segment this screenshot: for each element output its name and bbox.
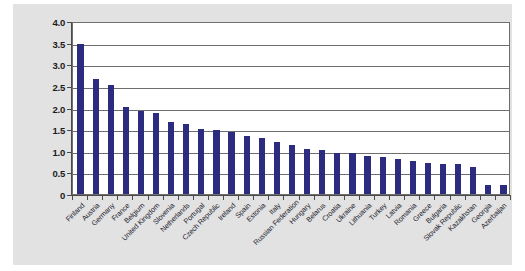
x-tick-mark: [102, 196, 103, 200]
y-tick-mark: [67, 22, 71, 23]
y-tick-label: 1.5: [52, 125, 65, 136]
y-tick-label: 0: [60, 190, 65, 201]
x-tick-mark: [72, 196, 73, 200]
bar: [198, 129, 204, 194]
x-tick-mark: [465, 196, 466, 200]
x-tick-mark: [314, 196, 315, 200]
bar: [77, 44, 83, 194]
bar: [425, 163, 431, 194]
bar: [138, 111, 144, 194]
x-tick-mark: [238, 196, 239, 200]
bar: [168, 122, 174, 194]
bar: [123, 107, 129, 194]
bar: [304, 149, 310, 194]
y-tick-label: 0.5: [52, 168, 65, 179]
bar: [500, 185, 506, 194]
x-tick-mark: [253, 196, 254, 200]
bar: [455, 164, 461, 194]
x-tick-mark: [148, 196, 149, 200]
bar: [395, 159, 401, 194]
y-tick-label: 1.0: [52, 146, 65, 157]
gridline: [73, 88, 509, 89]
y-tick-mark: [67, 130, 71, 131]
x-tick-mark: [510, 196, 511, 200]
x-tick-mark: [389, 196, 390, 200]
x-tick-mark: [419, 196, 420, 200]
x-tick-mark: [132, 196, 133, 200]
x-tick-mark: [480, 196, 481, 200]
x-axis-line: [71, 195, 511, 196]
x-tick-mark: [495, 196, 496, 200]
bar: [153, 113, 159, 194]
x-tick-mark: [299, 196, 300, 200]
y-tick-mark: [67, 195, 71, 196]
y-tick-mark: [67, 87, 71, 88]
x-tick-mark: [223, 196, 224, 200]
bar: [289, 145, 295, 194]
x-tick-mark: [193, 196, 194, 200]
bar: [364, 156, 370, 194]
y-tick-label: 2.0: [52, 103, 65, 114]
x-tick-mark: [404, 196, 405, 200]
bar: [259, 138, 265, 194]
y-tick-label: 3.0: [52, 60, 65, 71]
bar: [108, 85, 114, 194]
x-tick-mark: [374, 196, 375, 200]
bar: [213, 130, 219, 194]
y-tick-mark: [67, 44, 71, 45]
bar: [93, 79, 99, 194]
bar: [470, 167, 476, 194]
bar: [380, 157, 386, 194]
x-tick-mark: [344, 196, 345, 200]
x-tick-mark: [434, 196, 435, 200]
bar: [244, 136, 250, 194]
y-tick-label: 3.5: [52, 38, 65, 49]
y-tick-label: 4.0: [52, 17, 65, 28]
x-tick-mark: [283, 196, 284, 200]
bar: [319, 150, 325, 194]
y-tick-mark: [67, 109, 71, 110]
plot-area: [72, 22, 510, 195]
bar: [334, 153, 340, 194]
bar: [228, 132, 234, 194]
bar: [440, 164, 446, 194]
bar: [183, 124, 189, 194]
bar: [274, 142, 280, 194]
y-tick-mark: [67, 152, 71, 153]
x-tick-mark: [329, 196, 330, 200]
y-tick-mark: [67, 173, 71, 174]
x-tick-mark: [359, 196, 360, 200]
x-tick-mark: [450, 196, 451, 200]
gridline: [73, 45, 509, 46]
bar: [485, 185, 491, 195]
x-tick-mark: [208, 196, 209, 200]
gridline: [73, 66, 509, 67]
bar: [410, 161, 416, 194]
x-tick-mark: [178, 196, 179, 200]
y-tick-label: 2.5: [52, 81, 65, 92]
bar: [349, 153, 355, 194]
x-tick-mark: [117, 196, 118, 200]
x-tick-mark: [87, 196, 88, 200]
x-tick-mark: [268, 196, 269, 200]
x-tick-mark: [163, 196, 164, 200]
chart-figure: 4.03.53.02.52.01.51.00.50 FinlandAustria…: [13, 4, 512, 265]
y-tick-mark: [67, 65, 71, 66]
